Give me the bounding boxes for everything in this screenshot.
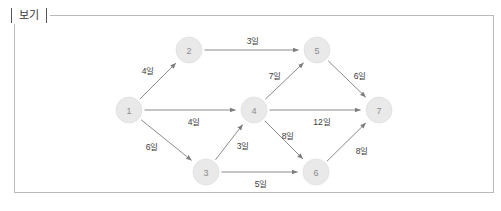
node-label-2: 2 — [186, 46, 191, 56]
example-box-label: 보기 — [8, 6, 50, 24]
network-diagram: 1234567 4일4일6일3일3일5일7일12일8일6일8일 — [0, 0, 501, 211]
nodes-layer: 1234567 — [116, 37, 392, 185]
edge-label-4-to-7: 12일 — [313, 117, 330, 127]
edge-label-4-to-5: 7일 — [269, 71, 282, 81]
node-2: 2 — [176, 37, 202, 63]
node-6: 6 — [303, 159, 329, 185]
edge-label-1-to-2: 4일 — [142, 66, 155, 76]
node-3: 3 — [193, 159, 219, 185]
node-label-3: 3 — [203, 168, 208, 178]
edge-label-3-to-4: 3일 — [237, 141, 250, 151]
node-label-4: 4 — [251, 106, 256, 116]
example-box-label-text: 보기 — [12, 8, 46, 23]
label-right-tick — [46, 8, 47, 23]
node-4: 4 — [241, 97, 267, 123]
edge-label-5-to-7: 6일 — [354, 71, 367, 81]
node-label-1: 1 — [126, 106, 131, 116]
node-label-7: 7 — [376, 106, 381, 116]
node-7: 7 — [366, 97, 392, 123]
edge-label-6-to-7: 8일 — [356, 146, 369, 156]
edge-1-to-3 — [141, 120, 192, 161]
node-5: 5 — [304, 37, 330, 63]
node-label-5: 5 — [314, 46, 319, 56]
diagram-screenshot: 보기 1234567 4일4일6일3일3일5일7일12일8일6일8일 — [0, 0, 501, 211]
edge-4-to-5 — [265, 63, 303, 100]
edge-label-3-to-6: 5일 — [255, 179, 268, 189]
node-label-6: 6 — [313, 168, 318, 178]
edge-label-1-to-3: 6일 — [146, 142, 159, 152]
node-1: 1 — [116, 97, 142, 123]
edge-label-2-to-5: 3일 — [247, 36, 260, 46]
edge-label-4-to-6: 8일 — [282, 131, 295, 141]
edge-label-1-to-4: 4일 — [188, 117, 201, 127]
